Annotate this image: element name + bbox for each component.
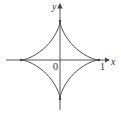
y-axis-label: y: [51, 1, 57, 12]
astroid-diagram: y x 0 1: [0, 0, 121, 113]
cusp-bottom: [59, 98, 61, 100]
cusp-top: [59, 20, 61, 22]
x-axis-label: x: [110, 56, 116, 67]
x-tick-label-1: 1: [100, 61, 105, 72]
origin-label: 0: [53, 61, 58, 72]
cusp-left: [20, 59, 22, 61]
